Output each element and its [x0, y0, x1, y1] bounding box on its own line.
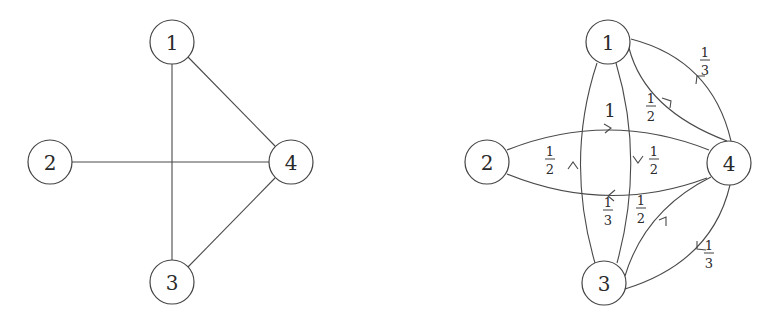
weight-4-to-1: 1 3 — [700, 45, 710, 78]
weight-denominator: 2 — [546, 162, 554, 177]
weight-numerator: 1 — [705, 238, 713, 253]
edge-1-4 — [188, 57, 275, 146]
node-3: 3 — [150, 260, 194, 304]
arrow-3-to-1 — [568, 162, 578, 169]
edge-2-to-4 — [507, 130, 709, 150]
weight-denominator: 3 — [705, 256, 713, 271]
edge-3-to-4 — [625, 177, 711, 276]
weight-4-to-2: 1 3 — [603, 195, 613, 228]
node-1: 1 — [586, 20, 630, 64]
edge-4-to-2 — [507, 174, 707, 196]
node-4: 4 — [269, 140, 313, 184]
weight-4-to-3: 1 3 — [704, 238, 714, 271]
weight-numerator: 1 — [647, 91, 655, 106]
arrow-1-to-3 — [633, 156, 643, 163]
node-2: 2 — [465, 140, 509, 184]
graphs-figure: 1 2 3 4 — [0, 0, 782, 321]
node-label: 3 — [166, 271, 179, 295]
weight-numerator: 1 — [637, 193, 645, 208]
weight-3-to-4: 1 2 — [636, 193, 646, 226]
node-3: 3 — [582, 261, 626, 305]
weight-denominator: 3 — [701, 63, 709, 78]
node-label: 3 — [598, 272, 611, 296]
weight-denominator: 2 — [650, 162, 658, 177]
weight-2-to-4: 1 — [604, 100, 615, 121]
right-graph: 1 1 3 1 2 1 2 1 2 1 3 1 2 — [465, 20, 751, 305]
weight-3-to-1: 1 2 — [545, 144, 555, 177]
weight-numerator: 1 — [701, 45, 709, 60]
arrow-2-to-4 — [604, 124, 611, 133]
node-label: 1 — [166, 31, 179, 55]
node-label: 2 — [44, 151, 57, 175]
weight-1-to-3: 1 2 — [649, 144, 659, 177]
weight-numerator: 1 — [546, 144, 554, 159]
weight-value: 1 — [604, 100, 615, 121]
weight-numerator: 1 — [650, 144, 658, 159]
weight-numerator: 1 — [604, 195, 612, 210]
node-2: 2 — [28, 140, 72, 184]
edge-4-to-1 — [631, 39, 731, 141]
arrow-3-to-4 — [659, 217, 666, 226]
weight-1-to-4: 1 2 — [646, 91, 656, 124]
weight-denominator: 2 — [647, 109, 655, 124]
node-label: 4 — [285, 151, 298, 175]
node-label: 2 — [481, 151, 494, 175]
edge-3-to-1 — [580, 63, 597, 263]
node-4: 4 — [707, 141, 751, 185]
weight-denominator: 3 — [604, 213, 612, 228]
edge-1-to-3 — [616, 63, 631, 263]
node-label: 1 — [602, 31, 615, 55]
edge-3-4 — [188, 178, 275, 267]
node-label: 4 — [723, 152, 736, 176]
node-1: 1 — [150, 20, 194, 64]
weight-denominator: 2 — [637, 211, 645, 226]
left-graph: 1 2 3 4 — [28, 20, 313, 304]
